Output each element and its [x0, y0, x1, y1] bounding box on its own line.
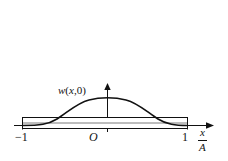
curve-label-close-paren: )	[82, 84, 86, 96]
x-tick-label-left: −1	[15, 131, 28, 143]
x-axis-label-denominator: A	[198, 142, 207, 154]
x-axis-label: x A	[198, 127, 207, 153]
x-axis-label-numerator: x	[198, 127, 207, 139]
curve-label: w(x,0)	[58, 85, 86, 96]
origin-label: O	[89, 131, 98, 143]
x-tick-label-right: 1	[182, 131, 188, 143]
x-axis-label-fraction: x A	[198, 127, 207, 153]
figure-canvas	[0, 0, 228, 161]
beam-deflection-figure: w(x,0) −1 O 1 x A	[0, 0, 228, 161]
y-axis-arrowhead-icon	[104, 83, 110, 90]
x-axis-arrowhead-icon	[206, 122, 214, 129]
